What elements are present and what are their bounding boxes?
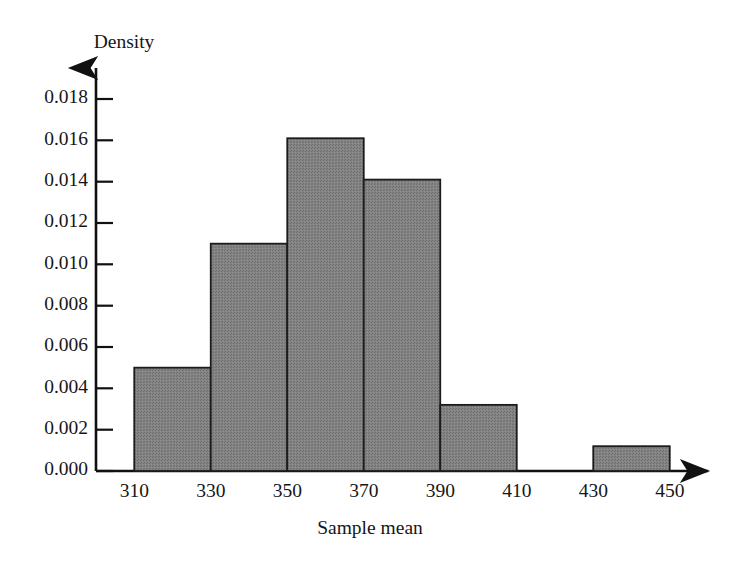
histogram-bar <box>593 446 670 471</box>
histogram-bar <box>440 405 517 471</box>
histogram-figure: Density 0.018 0.016 0.014 0.012 <box>0 0 748 565</box>
x-tick-label: 410 <box>502 480 531 501</box>
y-tick-label: 0.016 <box>44 128 88 149</box>
y-tick-label: 0.000 <box>44 458 88 479</box>
y-tick-label: 0.002 <box>44 417 88 438</box>
x-tick-label: 310 <box>120 480 149 501</box>
x-tick-label: 430 <box>579 480 608 501</box>
y-tick-label: 0.006 <box>44 334 88 355</box>
x-tick-label: 350 <box>273 480 302 501</box>
histogram-bar <box>364 180 441 471</box>
histogram-chart: Density 0.018 0.016 0.014 0.012 <box>0 0 748 565</box>
x-axis-title: Sample mean <box>317 517 423 538</box>
y-tick-label: 0.004 <box>44 376 88 397</box>
y-tick-label: 0.010 <box>44 252 88 273</box>
histogram-bar <box>211 244 288 471</box>
x-tick-label: 450 <box>655 480 684 501</box>
y-tick-label: 0.018 <box>44 86 88 107</box>
x-tick-label: 390 <box>426 480 455 501</box>
x-tick-label: 370 <box>349 480 378 501</box>
x-tick-label: 330 <box>196 480 225 501</box>
y-axis-title: Density <box>94 31 155 52</box>
y-tick-label: 0.014 <box>44 169 88 190</box>
y-tick-label: 0.008 <box>44 293 88 314</box>
histogram-bar <box>287 138 364 471</box>
histogram-bar <box>134 368 211 471</box>
y-tick-label: 0.012 <box>44 210 88 231</box>
